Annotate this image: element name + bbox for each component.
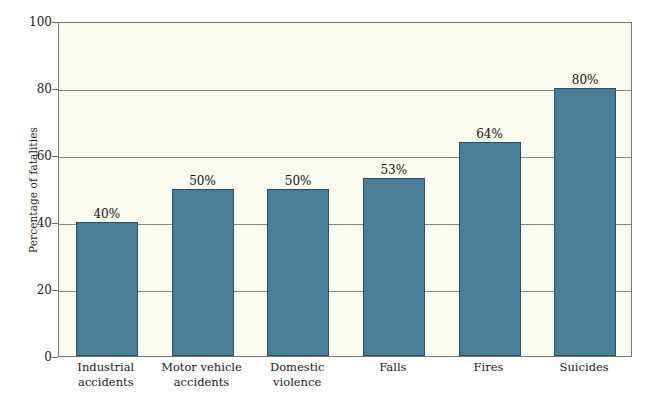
bar bbox=[554, 88, 616, 356]
y-axis-tick-labels: 020406080100 bbox=[0, 0, 52, 406]
bars-layer: 40%50%50%53%64%80% bbox=[59, 23, 631, 356]
bar bbox=[459, 142, 521, 356]
y-tick-label-40: 40 bbox=[4, 216, 52, 230]
y-tick-label-60: 60 bbox=[4, 149, 52, 163]
bar bbox=[172, 189, 234, 357]
x-axis-label-line: Suicides bbox=[522, 360, 645, 375]
x-axis-label-line: violence bbox=[235, 375, 359, 390]
bar-value-label: 50% bbox=[251, 174, 345, 191]
y-tick-label-100: 100 bbox=[4, 15, 52, 29]
bar-value-label: 53% bbox=[347, 163, 441, 180]
bar bbox=[76, 222, 138, 356]
bar bbox=[267, 189, 329, 357]
x-axis-category-labels: IndustrialaccidentsMotor vehicleaccident… bbox=[58, 360, 632, 404]
bar bbox=[363, 178, 425, 356]
y-tick-label-20: 20 bbox=[4, 283, 52, 297]
bar-chart: Percentage of fatalities 020406080100 40… bbox=[0, 0, 645, 406]
bar-value-label: 80% bbox=[538, 73, 632, 90]
bar-value-label: 40% bbox=[60, 207, 154, 224]
bar-value-label: 50% bbox=[156, 174, 250, 191]
bar-value-label: 64% bbox=[443, 127, 537, 144]
x-axis-label: Suicides bbox=[522, 360, 645, 375]
y-tick-mark-0 bbox=[52, 357, 58, 358]
y-tick-label-80: 80 bbox=[4, 82, 52, 96]
plot-area: 40%50%50%53%64%80% bbox=[58, 22, 632, 357]
